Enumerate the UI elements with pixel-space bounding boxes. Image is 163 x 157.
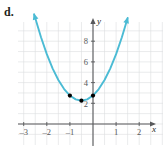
x-tick-label: 2 <box>137 127 141 137</box>
y-tick-label: 8 <box>84 36 88 46</box>
x-tick-label: –3 <box>18 127 28 137</box>
x-tick-label: –1 <box>65 127 75 137</box>
y-axis-label: y <box>96 16 101 26</box>
x-axis-label: x <box>151 124 156 134</box>
coordinate-plane: –3–2–112 2468 x y <box>0 0 163 157</box>
y-tick-label: 2 <box>84 99 88 109</box>
x-tick-label: –2 <box>42 127 52 137</box>
x-tick-label: 1 <box>114 127 118 137</box>
x-axis-tick-labels: –3–2–112 <box>18 127 141 137</box>
y-tick-label: 6 <box>84 57 88 67</box>
parabola-curve <box>33 13 129 101</box>
figure-panel: d. –3–2–112 2468 x y <box>0 0 163 157</box>
